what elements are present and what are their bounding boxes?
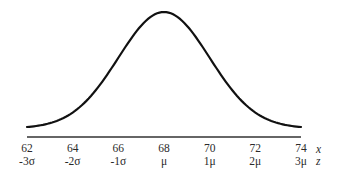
x-tick-label: 64 xyxy=(67,142,79,154)
x-axis-variable-label: x xyxy=(316,143,321,155)
x-tick-label: 66 xyxy=(113,142,125,154)
z-tick-label: -1σ xyxy=(110,155,126,167)
x-tick-label: 70 xyxy=(204,142,216,154)
z-tick-label: 2μ xyxy=(249,155,261,167)
bell-curve xyxy=(27,12,301,127)
z-tick-label: 1μ xyxy=(204,155,216,167)
z-tick-label: μ xyxy=(161,155,167,167)
x-tick-label: 68 xyxy=(158,142,170,154)
z-axis-variable-label: z xyxy=(316,155,320,167)
x-tick-label: 62 xyxy=(21,142,33,154)
x-tick-label: 72 xyxy=(250,142,262,154)
x-tick-label: 74 xyxy=(295,142,307,154)
z-tick-label: 3μ xyxy=(295,155,307,167)
z-tick-label: -3σ xyxy=(19,155,35,167)
z-tick-label: -2σ xyxy=(65,155,81,167)
